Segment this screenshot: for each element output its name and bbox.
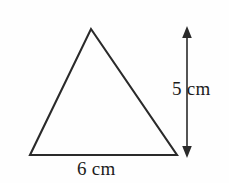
arrow-down-icon [182, 146, 192, 158]
figure-canvas: 5 cm 6 cm [0, 0, 229, 183]
base-label: 6 cm [77, 159, 116, 179]
arrow-up-icon [182, 26, 192, 38]
height-label: 5 cm [172, 79, 211, 99]
triangle-shape [30, 29, 177, 155]
